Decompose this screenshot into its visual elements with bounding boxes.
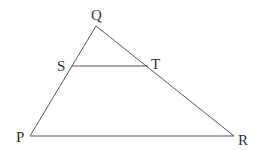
vertex-label-p: P [16, 129, 24, 145]
vertex-label-q: Q [91, 7, 102, 23]
segment-QR [96, 26, 234, 136]
vertex-label-r: R [238, 132, 248, 148]
segment-QP [30, 26, 96, 136]
triangle-diagram: Q S T P R [0, 0, 262, 150]
vertex-label-t: T [151, 56, 160, 72]
vertex-label-s: S [57, 58, 65, 74]
